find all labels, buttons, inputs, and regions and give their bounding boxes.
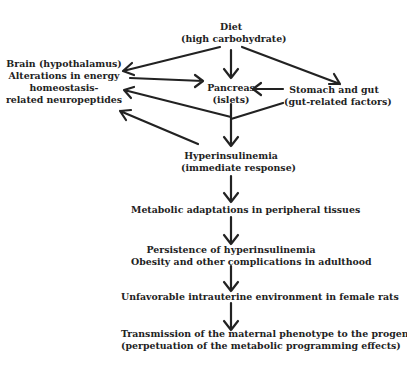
- intrauterine-label: Unfavorable intrauterine environment in …: [121, 291, 341, 303]
- node-intrauterine: Unfavorable intrauterine environment in …: [121, 291, 341, 303]
- metabolic-label: Metabolic adaptations in peripheral tiss…: [131, 204, 331, 216]
- brain-line2: Alterations in energy: [4, 70, 124, 82]
- stomach-label: Stomach and gut: [284, 84, 384, 96]
- node-transmission: Transmission of the maternal phenotype t…: [121, 328, 341, 352]
- arrow-hyper-to-metabolic: [224, 176, 238, 202]
- node-diet: Diet (high carbohydrate): [181, 21, 281, 45]
- hyperinsulinemia-label: Hyperinsulinemia: [181, 150, 281, 162]
- brain-line3: homeostasis-: [4, 82, 124, 94]
- node-hyperinsulinemia: Hyperinsulinemia (immediate response): [181, 150, 281, 174]
- arrow-diet-to-stomach: [242, 47, 340, 84]
- transmission-label: Transmission of the maternal phenotype t…: [121, 328, 341, 340]
- stomach-sublabel: (gut-related factors): [284, 96, 384, 108]
- node-persistence: Persistence of hyperinsulinemia Obesity …: [131, 244, 331, 268]
- arrow-diet-to-pancreas: [224, 50, 238, 78]
- arrow-intrauterine-to-transmission: [224, 303, 238, 330]
- node-stomach: Stomach and gut (gut-related factors): [284, 84, 384, 108]
- arrow-brain-to-pancreas: [130, 75, 203, 87]
- brain-label: Brain (hypothalamus): [4, 58, 124, 70]
- arrow-hyperinsulinemia-to-brain: [120, 110, 198, 144]
- arrow-metabolic-to-persistence: [224, 217, 238, 244]
- persistence-label: Persistence of hyperinsulinemia: [131, 244, 331, 256]
- hyperinsulinemia-sublabel: (immediate response): [181, 162, 281, 174]
- arrow-pancreas-to-hyperinsulinemia: [224, 104, 238, 146]
- arrow-diet-to-brain: [123, 47, 220, 75]
- brain-line4: related neuropeptides: [4, 94, 124, 106]
- diet-label: Diet: [181, 21, 281, 33]
- node-pancreas: Pancreas (islets): [201, 82, 261, 106]
- arrows-layer: [0, 0, 407, 370]
- arrow-persistence-to-intrauterine: [224, 266, 238, 291]
- node-brain: Brain (hypothalamus) Alterations in ener…: [4, 58, 124, 106]
- pancreas-label: Pancreas: [201, 82, 261, 94]
- pancreas-sublabel: (islets): [201, 94, 261, 106]
- transmission-sublabel: (perpetuation of the metabolic programmi…: [121, 340, 341, 352]
- persistence-sublabel: Obesity and other complications in adult…: [131, 256, 331, 268]
- node-metabolic: Metabolic adaptations in peripheral tiss…: [131, 204, 331, 216]
- diet-sublabel: (high carbohydrate): [181, 33, 281, 45]
